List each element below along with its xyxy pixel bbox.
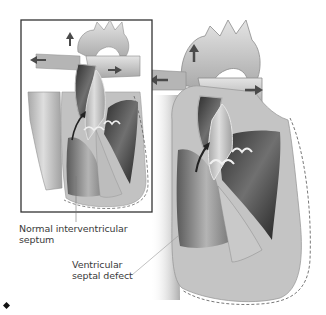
label-normal-line1: Normal interventricular [19,223,139,234]
label-vsd-line2: septal defect [72,270,162,281]
main-heart [150,20,310,304]
label-normal-interventricular-septum: Normal interventricular septum [19,223,139,245]
label-ventricular-septal-defect: Ventricular septal defect [72,259,162,281]
label-vsd-line1: Ventricular [72,259,162,270]
diamond-bullet-icon [3,302,10,309]
heart-illustration [0,0,326,315]
inset-normal-heart [21,20,152,212]
label-normal-line2: septum [19,234,139,245]
